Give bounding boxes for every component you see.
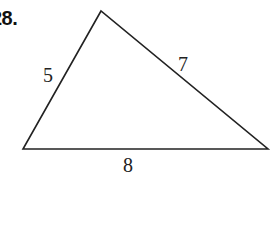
triangle: [23, 11, 268, 149]
side-label-right: 7: [178, 53, 188, 75]
side-label-base: 8: [123, 154, 133, 176]
side-label-left: 5: [43, 64, 53, 86]
triangle-diagram: 5 7 8: [0, 0, 271, 228]
